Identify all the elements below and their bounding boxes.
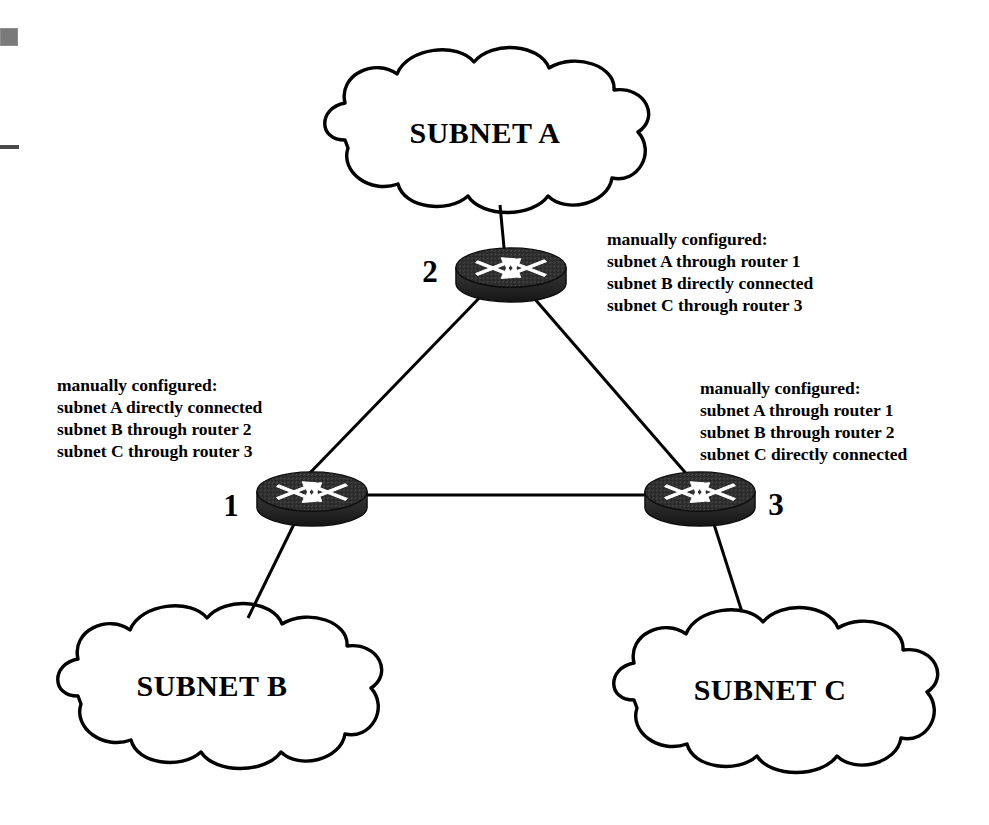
annotation-router-3-heading: manually configured: [700,377,989,399]
annotation-router-3-line-1: subnet A through router 1 [700,399,989,421]
annotation-router-3-line-3: subnet C directly connected [700,443,989,465]
annotation-router-2-line-1: subnet A through router 1 [607,250,813,272]
network-diagram: SUBNET A SUBNET B SUBNET C 2 1 3 manuall… [0,0,989,825]
cloud-label-subnet-a: SUBNET A [409,116,560,150]
annotation-router-2-heading: manually configured: [607,228,813,250]
annotation-router-2-line-2: subnet B directly connected [607,272,813,294]
scan-artifact-line [0,145,19,149]
scan-artifact-block [0,28,18,46]
router-2[interactable] [456,248,566,302]
annotation-router-1-line-3: subnet C through router 3 [57,440,262,462]
router-label-2: 2 [422,254,438,290]
link-router2-router1 [305,290,487,478]
link-router2-router3 [527,290,690,478]
router-1[interactable] [257,472,367,526]
router-label-3: 3 [768,487,784,523]
router-label-1: 1 [223,488,239,524]
link-router1-subnetb [248,518,297,618]
annotation-router-2: manually configured: subnet A through ro… [607,228,813,316]
cloud-label-subnet-c: SUBNET C [694,673,847,707]
cloud-label-subnet-b: SUBNET B [136,669,287,703]
annotation-router-1-line-2: subnet B through router 2 [57,418,262,440]
annotation-router-1: manually configured: subnet A directly c… [57,374,262,462]
router-3[interactable] [645,472,755,526]
annotation-router-2-line-3: subnet C through router 3 [607,294,813,316]
link-router3-subnetc [712,518,742,612]
annotation-router-1-line-1: subnet A directly connected [57,396,262,418]
annotation-router-3-line-2: subnet B through router 2 [700,421,989,443]
annotation-router-1-heading: manually configured: [57,374,262,396]
annotation-router-3: manually configured: subnet A through ro… [700,377,989,465]
